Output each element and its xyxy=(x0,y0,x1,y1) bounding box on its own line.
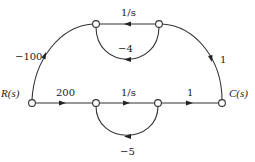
arrow-down-icon xyxy=(208,55,213,62)
arrow-right-icon xyxy=(186,101,193,106)
gain-label-minus-4: −4 xyxy=(118,43,133,54)
arrow-right-icon xyxy=(123,101,130,106)
arrow-left-icon xyxy=(124,57,131,62)
gain-label-1-over-s-bottom: 1/s xyxy=(121,87,136,98)
gain-label-200: 200 xyxy=(56,87,75,98)
edge-bottom-loop xyxy=(96,106,158,135)
gain-label-minus-5: −5 xyxy=(120,146,135,157)
arrow-left-icon xyxy=(124,22,131,27)
gain-label-1-right: 1 xyxy=(220,54,226,65)
gain-label-1-over-s-top: 1/s xyxy=(121,7,136,18)
node-t2 xyxy=(156,21,163,28)
output-label: C(s) xyxy=(229,87,248,100)
node-n2 xyxy=(155,100,162,107)
input-label: R(s) xyxy=(0,87,20,100)
node-n1 xyxy=(93,100,100,107)
node-t1 xyxy=(93,21,100,28)
arrow-right-icon xyxy=(59,101,66,106)
gain-label-1-bottom: 1 xyxy=(187,87,193,98)
node-c xyxy=(219,100,226,107)
node-r xyxy=(29,100,36,107)
gain-label-minus-100: −100 xyxy=(15,51,42,62)
signal-flow-graph: R(s) C(s) 200 1/s 1 −5 −100 1/s −4 1 xyxy=(0,0,255,162)
